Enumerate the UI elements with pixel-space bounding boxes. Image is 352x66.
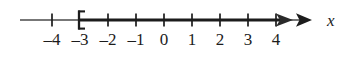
axis-label-x: x [327,12,335,29]
tick-label-1: 1 [188,31,197,48]
number-line-figure: –4 –3 –2 –1 0 1 2 3 4 x [0,0,352,66]
tick-label-neg1: –1 [128,31,145,48]
tick-label-0: 0 [160,31,169,48]
tick-label-2: 2 [216,31,225,48]
tick-label-3: 3 [244,31,253,48]
tick-label-4: 4 [272,31,281,48]
tick-label-neg3: –3 [72,31,89,48]
tick-label-neg4: –4 [44,31,61,48]
tick-label-neg2: –2 [100,31,117,48]
